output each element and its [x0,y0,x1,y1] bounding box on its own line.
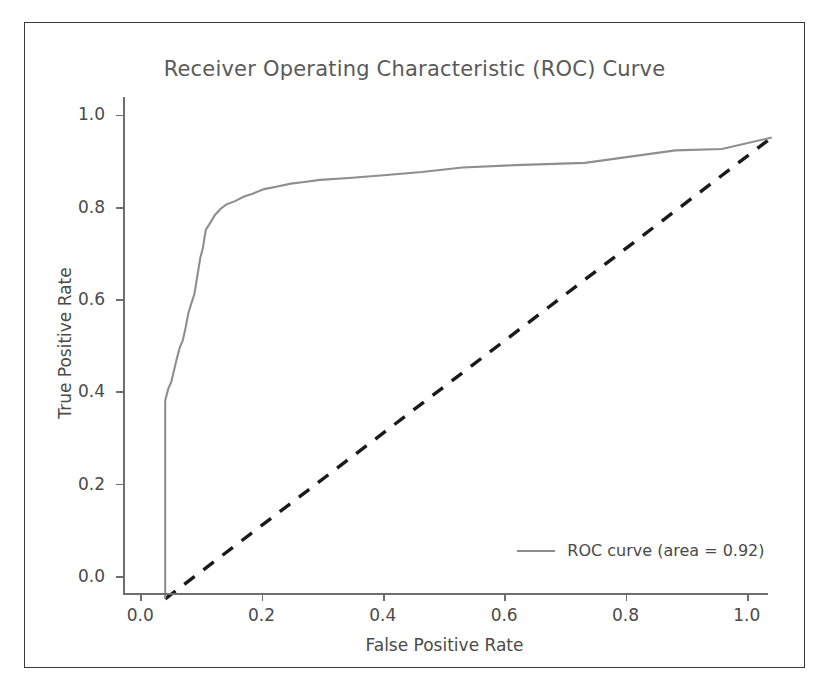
legend-label: ROC curve (area = 0.92) [567,541,764,560]
roc-curve-line [165,137,772,598]
x-tick-label: 0.4 [353,605,413,625]
y-axis-label: True Positive Rate [55,233,75,453]
chart-title: Receiver Operating Characteristic (ROC) … [25,57,804,81]
x-tick-label: 0.6 [474,605,534,625]
y-tick-label: 1.0 [43,104,105,124]
x-tick-mark [140,594,142,601]
y-tick-mark [116,115,123,117]
y-tick-mark [116,576,123,578]
roc-curve-group [165,137,772,598]
figure-frame: Receiver Operating Characteristic (ROC) … [24,22,805,668]
y-tick-mark [116,484,123,486]
x-tick-label: 1.0 [717,605,777,625]
legend-line-swatch [517,550,555,552]
y-tick-mark [116,391,123,393]
x-tick-mark [626,594,628,601]
legend: ROC curve (area = 0.92) [517,541,764,560]
y-tick-mark [116,299,123,301]
y-tick-label: 0.2 [43,474,105,494]
diagonal-chance-line-group [165,137,772,598]
y-tick-label: 0.8 [43,197,105,217]
diagonal-chance-line [165,137,772,598]
y-tick-mark [116,207,123,209]
x-tick-mark [747,594,749,601]
x-tick-label: 0.0 [110,605,170,625]
x-tick-label: 0.8 [595,605,655,625]
x-axis-spine [123,593,768,595]
y-axis-spine [123,97,125,595]
screenshot-canvas: Receiver Operating Characteristic (ROC) … [0,0,830,689]
x-tick-mark [383,594,385,601]
x-tick-mark [262,594,264,601]
y-tick-label: 0.0 [43,566,105,586]
x-tick-mark [504,594,506,601]
x-tick-label: 0.2 [232,605,292,625]
x-axis-label: False Positive Rate [123,635,766,655]
